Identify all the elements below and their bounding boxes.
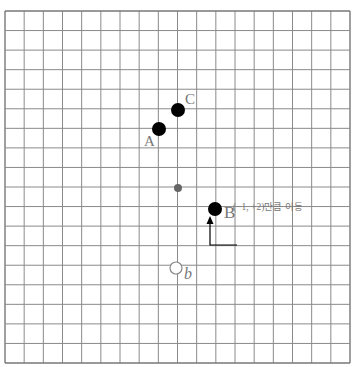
label-b: b xyxy=(184,266,192,282)
move-annotation: (−1, +2)만큼 이동 xyxy=(233,203,303,213)
point-b xyxy=(170,262,182,274)
point-C xyxy=(171,103,185,117)
point-B xyxy=(208,202,222,216)
arrow-line xyxy=(210,218,237,245)
coordinate-grid-diagram xyxy=(0,0,353,367)
label-C: C xyxy=(185,92,195,107)
arrowhead-icon xyxy=(207,216,214,224)
point-center xyxy=(174,184,182,192)
label-A: A xyxy=(144,134,155,149)
